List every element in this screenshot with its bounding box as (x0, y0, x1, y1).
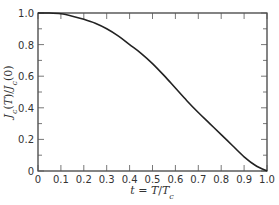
y-tick-label: 0 (28, 166, 34, 177)
x-tick-label: 0.7 (190, 174, 206, 185)
x-tick-label: 1.0 (259, 174, 275, 185)
y-tick-label: 1.0 (18, 8, 34, 19)
y-tick-label: 0.4 (18, 103, 34, 114)
x-axis-label: t = T/Tc (130, 184, 174, 201)
jc-curve (38, 13, 267, 171)
y-tick-label: 0.6 (18, 71, 34, 82)
x-tick-label: 0.2 (76, 174, 92, 185)
x-tick-label: 0.6 (167, 174, 183, 185)
x-tick-label: 0.8 (213, 174, 229, 185)
plot-area (38, 13, 267, 171)
x-tick-label: 0 (35, 174, 41, 185)
y-axis-label: Jc(T)/Jc(0) (2, 65, 19, 120)
x-tick-label: 0.1 (53, 174, 69, 185)
y-tick-label: 0.2 (18, 134, 34, 145)
x-tick-label: 0.3 (99, 174, 115, 185)
chart: 00.10.20.30.40.50.60.70.80.91.0 00.20.40… (0, 0, 279, 205)
x-axis-ticks: 00.10.20.30.40.50.60.70.80.91.0 (35, 13, 275, 185)
y-axis-ticks: 00.20.40.60.81.0 (18, 8, 267, 177)
plot-frame (38, 13, 267, 171)
y-tick-label: 0.8 (18, 40, 34, 51)
x-tick-label: 0.9 (236, 174, 252, 185)
